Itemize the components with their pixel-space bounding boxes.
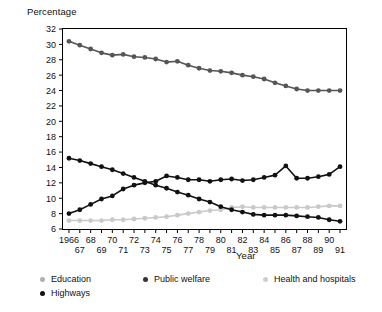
data-point	[186, 211, 191, 216]
data-point	[240, 73, 245, 78]
x-tick-label: 91	[335, 245, 345, 255]
line-chart: Percentage Year 681012141618202224262830…	[0, 0, 382, 312]
y-tick-label: 32	[46, 24, 56, 34]
data-point	[88, 47, 93, 52]
data-point	[88, 202, 93, 207]
data-point	[338, 164, 343, 169]
data-point	[142, 216, 147, 221]
data-point	[316, 215, 321, 220]
x-tick-label: 88	[302, 235, 312, 245]
x-tick-label: 73	[140, 245, 150, 255]
legend-row-1: Education Public welfare Health and hosp…	[40, 272, 380, 286]
x-tick-label: 1966	[59, 235, 79, 245]
x-tick-label: 69	[96, 245, 106, 255]
data-point	[153, 57, 158, 62]
x-tick-label: 77	[183, 245, 193, 255]
data-point	[132, 54, 137, 59]
data-point	[283, 84, 288, 89]
legend-item-health-and-hospitals[interactable]: Health and hospitals	[263, 275, 356, 284]
data-point	[229, 177, 234, 182]
data-point	[186, 177, 191, 182]
data-point	[175, 59, 180, 64]
legend-marker-health-and-hospitals	[263, 277, 268, 282]
data-point	[142, 55, 147, 60]
y-tick-label: 24	[46, 86, 56, 96]
x-tick-label: 90	[324, 235, 334, 245]
data-point	[186, 193, 191, 198]
y-tick-label: 16	[46, 147, 56, 157]
data-point	[99, 50, 104, 55]
legend-marker-highways	[40, 291, 45, 296]
data-point	[240, 178, 245, 183]
x-tick-label: 87	[292, 245, 302, 255]
data-point	[251, 205, 256, 210]
data-point	[77, 218, 82, 223]
x-tick-label: 67	[75, 245, 85, 255]
x-tick-label: 81	[227, 245, 237, 255]
legend: Education Public welfare Health and hosp…	[40, 272, 380, 300]
data-point	[164, 60, 169, 65]
legend-item-education[interactable]: Education	[40, 275, 143, 284]
data-point	[283, 164, 288, 169]
series-education	[67, 39, 343, 93]
series-highways	[67, 156, 343, 224]
legend-item-public-welfare[interactable]: Public welfare	[143, 275, 263, 284]
data-point	[110, 217, 115, 222]
legend-label-education: Education	[51, 275, 91, 284]
data-point	[327, 217, 332, 222]
data-point	[197, 177, 202, 182]
x-tick-label: 84	[259, 235, 269, 245]
x-tick-label: 79	[205, 245, 215, 255]
data-point	[305, 88, 310, 93]
legend-item-highways[interactable]: Highways	[40, 289, 90, 298]
plot-frame	[63, 29, 347, 230]
y-tick-label: 22	[46, 101, 56, 111]
y-tick-label: 14	[46, 163, 56, 173]
data-point	[273, 205, 278, 210]
x-tick-label: 85	[270, 245, 280, 255]
data-point	[338, 88, 343, 93]
series-line-health-and-hospitals	[69, 206, 340, 221]
data-point	[121, 217, 126, 222]
data-point	[110, 167, 115, 172]
data-point	[67, 211, 72, 216]
legend-marker-public-welfare	[143, 277, 148, 282]
data-point	[142, 179, 147, 184]
data-point	[316, 204, 321, 209]
data-point	[164, 186, 169, 191]
data-point	[208, 68, 213, 73]
data-point	[294, 87, 299, 92]
data-point	[208, 200, 213, 205]
data-point	[338, 219, 343, 224]
data-point	[164, 214, 169, 219]
data-point	[273, 213, 278, 218]
legend-label-health-and-hospitals: Health and hospitals	[274, 275, 356, 284]
y-tick-label: 12	[46, 178, 56, 188]
y-tick-label: 8	[51, 209, 56, 219]
data-point	[327, 172, 332, 177]
data-point	[338, 204, 343, 209]
y-tick-label: 10	[46, 194, 56, 204]
x-tick-label: 83	[248, 245, 258, 255]
x-tick-label: 75	[162, 245, 172, 255]
data-point	[77, 158, 82, 163]
data-point	[99, 197, 104, 202]
data-point	[229, 70, 234, 75]
data-point	[251, 74, 256, 79]
data-point	[164, 174, 169, 179]
data-point	[110, 53, 115, 58]
data-point	[110, 194, 115, 199]
y-tick-label: 20	[46, 117, 56, 127]
data-point	[208, 208, 213, 213]
data-point	[132, 183, 137, 188]
y-tick-label: 6	[51, 224, 56, 234]
data-point	[229, 207, 234, 212]
y-axis-ticks: 68101214161820222426283032	[46, 24, 63, 234]
series-health-and-hospitals	[67, 204, 343, 223]
series-line-education	[69, 41, 340, 90]
data-point	[121, 187, 126, 192]
series-layer	[67, 39, 343, 224]
x-tick-label: 78	[194, 235, 204, 245]
x-tick-label: 71	[118, 245, 128, 255]
data-point	[316, 88, 321, 93]
